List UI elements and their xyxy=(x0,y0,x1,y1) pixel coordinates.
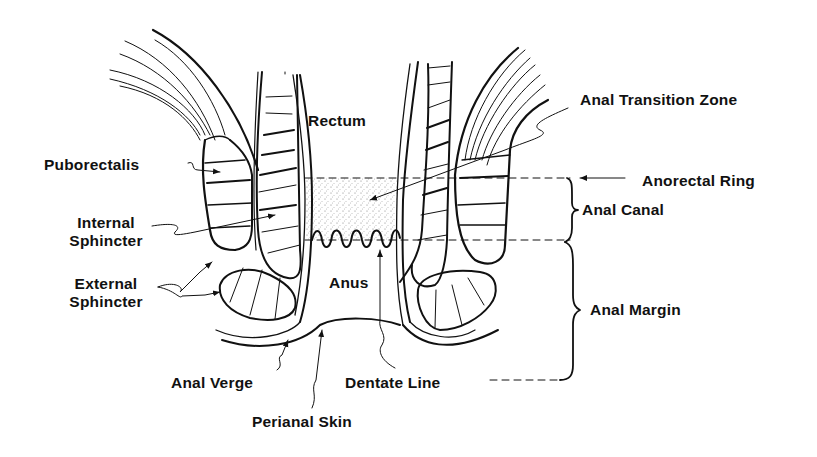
label-anorectal-ring: Anorectal Ring xyxy=(642,172,755,190)
label-anal-canal: Anal Canal xyxy=(582,201,664,219)
right-levator-fibers xyxy=(465,50,545,165)
left-levator-outer xyxy=(153,30,258,170)
anatomy-diagram: Rectum Anal Transition Zone Anorectal Ri… xyxy=(0,0,817,457)
label-anus: Anus xyxy=(329,274,369,292)
label-external-sphincter-line2: Sphincter xyxy=(58,293,154,311)
label-anal-verge: Anal Verge xyxy=(171,374,253,392)
right-puborectalis xyxy=(455,150,510,264)
label-perianal-skin: Perianal Skin xyxy=(252,413,352,431)
label-rectum: Rectum xyxy=(308,112,366,130)
label-internal-sphincter-line2: Sphincter xyxy=(58,232,154,250)
label-internal-sphincter: Internal Sphincter xyxy=(58,214,154,250)
left-external-sphincter xyxy=(220,268,296,320)
right-external-sphincter xyxy=(418,271,496,330)
label-external-sphincter: External Sphincter xyxy=(58,275,154,311)
label-anal-margin: Anal Margin xyxy=(590,301,681,319)
right-levator-inner xyxy=(510,100,548,150)
left-puborectalis xyxy=(203,136,252,250)
anal-margin-brace xyxy=(560,242,580,380)
label-internal-sphincter-line1: Internal xyxy=(58,214,154,232)
right-internal-sphincter xyxy=(397,62,452,325)
right-levator-outer xyxy=(455,48,518,175)
left-levator-fibers xyxy=(110,40,225,140)
label-dentate-line: Dentate Line xyxy=(345,374,440,392)
label-puborectalis: Puborectalis xyxy=(44,156,139,174)
perianal-skin-line xyxy=(222,319,400,346)
label-external-sphincter-line1: External xyxy=(58,275,154,293)
left-internal-sphincter xyxy=(254,72,312,322)
left-skin-inner xyxy=(216,322,300,338)
label-anal-transition-zone: Anal Transition Zone xyxy=(580,91,737,109)
leader-lines xyxy=(152,108,625,408)
anal-canal-brace xyxy=(565,178,578,242)
